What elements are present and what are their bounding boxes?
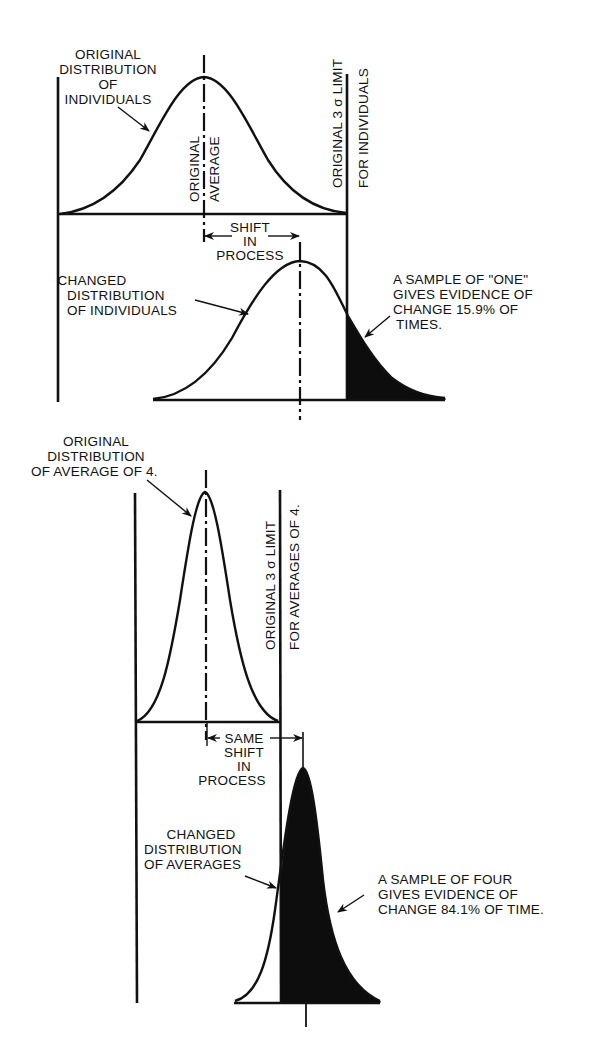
- original-averages-curve: [137, 492, 278, 721]
- svg-text:A SAMPLE OF FOUR: A SAMPLE OF FOUR: [378, 872, 513, 887]
- same-shift-label: SAME SHIFT IN PROCESS: [198, 731, 265, 788]
- original-dist-pointer-arrow: [118, 107, 149, 131]
- svg-text:OF AVERAGES: OF AVERAGES: [144, 857, 241, 872]
- svg-text:ORIGINAL 3 σ LIMIT: ORIGINAL 3 σ LIMIT: [330, 59, 345, 188]
- original-avg-pointer-arrow: [147, 480, 191, 516]
- bottom-left-axis-line: [135, 493, 137, 1003]
- evidence-four-label: A SAMPLE OF FOUR GIVES EVIDENCE OF CHANG…: [378, 872, 544, 917]
- bottom-panel: ORIGINAL DISTRIBUTION OF AVERAGE OF 4. O…: [31, 434, 544, 1027]
- svg-text:TIMES.: TIMES.: [396, 317, 442, 332]
- svg-text:SHIFT: SHIFT: [224, 745, 264, 760]
- averages-limit-label: ORIGINAL 3 σ LIMIT FOR AVERAGES OF 4.: [263, 504, 302, 650]
- svg-text:OF INDIVIDUALS: OF INDIVIDUALS: [67, 303, 177, 318]
- shift-in-process-label: SHIFT IN PROCESS: [216, 220, 283, 263]
- evidence-one-label: A SAMPLE OF "ONE" GIVES EVIDENCE OF CHAN…: [393, 272, 533, 332]
- averages-3-sigma-limit-line: [280, 490, 281, 1003]
- original-distribution-label: ORIGINAL DISTRIBUTION OF INDIVIDUALS: [59, 47, 157, 107]
- evidence-one-pointer-arrow: [365, 316, 390, 337]
- svg-text:CHANGED: CHANGED: [167, 827, 236, 842]
- svg-text:SHIFT: SHIFT: [230, 220, 270, 235]
- svg-text:PROCESS: PROCESS: [198, 773, 265, 788]
- changed-avg-pointer-arrow: [245, 876, 276, 888]
- svg-text:CHANGED: CHANGED: [58, 273, 127, 288]
- svg-text:GIVES EVIDENCE OF: GIVES EVIDENCE OF: [393, 287, 533, 302]
- svg-text:OF AVERAGE OF 4.: OF AVERAGE OF 4.: [31, 464, 158, 479]
- svg-text:FOR INDIVIDUALS: FOR INDIVIDUALS: [356, 68, 371, 188]
- individuals-limit-label: ORIGINAL 3 σ LIMIT FOR INDIVIDUALS: [330, 59, 371, 188]
- svg-text:ORIGINAL 3 σ LIMIT: ORIGINAL 3 σ LIMIT: [263, 521, 278, 650]
- svg-text:DISTRIBUTION: DISTRIBUTION: [47, 449, 145, 464]
- svg-text:DISTRIBUTION: DISTRIBUTION: [144, 842, 242, 857]
- svg-text:CHANGE 15.9% OF: CHANGE 15.9% OF: [393, 302, 518, 317]
- svg-text:IN: IN: [237, 759, 251, 774]
- svg-text:DISTRIBUTION: DISTRIBUTION: [67, 288, 165, 303]
- svg-text:A SAMPLE OF "ONE": A SAMPLE OF "ONE": [393, 272, 528, 287]
- svg-text:PROCESS: PROCESS: [216, 248, 283, 263]
- svg-text:GIVES EVIDENCE OF: GIVES EVIDENCE OF: [378, 887, 518, 902]
- top-panel: ORIGINAL DISTRIBUTION OF INDIVIDUALS ORI…: [58, 47, 533, 420]
- averages-shaded-region: [282, 768, 380, 1003]
- svg-text:ORIGINAL: ORIGINAL: [75, 47, 141, 62]
- svg-text:FOR AVERAGES OF 4.: FOR AVERAGES OF 4.: [287, 504, 302, 650]
- control-limit-sensitivity-diagram: ORIGINAL DISTRIBUTION OF INDIVIDUALS ORI…: [0, 0, 606, 1044]
- changed-dist-pointer-arrow: [195, 300, 248, 314]
- svg-text:SAME: SAME: [224, 731, 263, 746]
- svg-text:ORIGINAL: ORIGINAL: [63, 434, 129, 449]
- svg-text:ORIGINAL: ORIGINAL: [187, 136, 202, 202]
- svg-text:DISTRIBUTION: DISTRIBUTION: [59, 62, 157, 77]
- svg-text:INDIVIDUALS: INDIVIDUALS: [65, 92, 152, 107]
- changed-distribution-label: CHANGED DISTRIBUTION OF INDIVIDUALS: [58, 273, 178, 318]
- svg-text:AVERAGE: AVERAGE: [207, 136, 222, 202]
- changed-averages-label: CHANGED DISTRIBUTION OF AVERAGES: [144, 827, 242, 872]
- svg-text:CHANGE 84.1% OF TIME.: CHANGE 84.1% OF TIME.: [378, 902, 544, 917]
- svg-text:OF: OF: [98, 77, 117, 92]
- original-averages-label: ORIGINAL DISTRIBUTION OF AVERAGE OF 4.: [31, 434, 158, 479]
- svg-text:IN: IN: [243, 234, 257, 249]
- evidence-four-pointer-arrow: [338, 895, 364, 912]
